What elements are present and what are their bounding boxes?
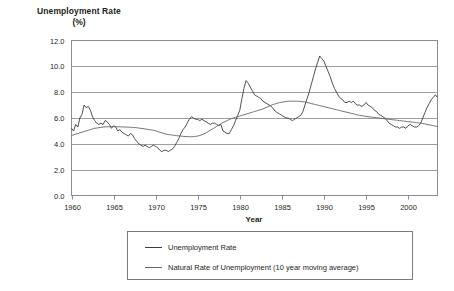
y-tick-label: 10.0 — [50, 62, 65, 71]
x-tick-label: 1975 — [190, 203, 207, 212]
chart-legend: Unemployment Rate Natural Rate of Unempl… — [127, 231, 413, 280]
legend-label: Natural Rate of Unemployment (10 year mo… — [168, 263, 359, 272]
x-tick-label: 1990 — [316, 203, 333, 212]
y-tick-label: 4.0 — [54, 140, 64, 149]
legend-label: Unemployment Rate — [168, 243, 236, 252]
legend-line-swatch-icon — [145, 267, 162, 268]
y-tick-label: 12.0 — [50, 37, 65, 46]
series-lines — [72, 56, 438, 152]
x-tick-label: 1970 — [148, 203, 165, 212]
x-tick-label: 1980 — [232, 203, 249, 212]
x-tick-label: 1985 — [274, 203, 291, 212]
legend-item-unemployment-rate: Unemployment Rate — [145, 241, 236, 253]
x-axis-ticks: 196019651970197519801985199019952000 — [64, 196, 417, 212]
x-axis-title: Year — [246, 215, 263, 224]
legend-item-natural-rate: Natural Rate of Unemployment (10 year mo… — [145, 261, 359, 273]
y-tick-label: 0.0 — [54, 192, 64, 201]
legend-line-swatch-icon — [145, 247, 162, 248]
y-tick-label: 8.0 — [54, 88, 64, 97]
y-tick-label: 2.0 — [54, 166, 64, 175]
x-tick-label: 2000 — [400, 203, 417, 212]
x-tick-label: 1995 — [358, 203, 375, 212]
y-axis-ticks: 0.02.04.06.08.010.012.0 — [50, 37, 65, 201]
plot-area: 0.02.04.06.08.010.012.0 1960196519701975… — [0, 0, 454, 231]
chart-figure: Unemployment Rate (%) 0.02.04.06.08.010.… — [0, 0, 454, 291]
x-tick-label: 1965 — [106, 203, 123, 212]
series-line-unemployment-rate — [72, 56, 438, 152]
y-tick-label: 6.0 — [54, 114, 64, 123]
x-tick-label: 1960 — [64, 203, 81, 212]
